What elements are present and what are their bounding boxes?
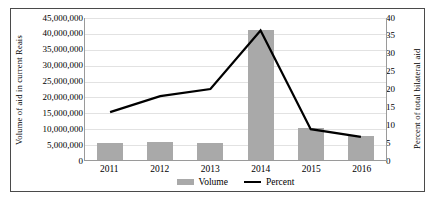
y-tick-label-left: 5,000,000 bbox=[47, 141, 83, 150]
y-axis-left-title: Volume of aid in current Reais bbox=[14, 15, 24, 165]
x-axis-ticks: 201120122013201420152016 bbox=[84, 164, 387, 174]
x-tick-label: 2011 bbox=[84, 164, 135, 174]
chart-figure: Volume of aid in current Reais Percent o… bbox=[10, 8, 425, 192]
x-tick-label: 2012 bbox=[135, 164, 186, 174]
legend-item[interactable]: Volume bbox=[177, 177, 228, 187]
chart-legend: VolumePercent bbox=[84, 177, 387, 187]
plot-area bbox=[84, 18, 387, 161]
y-tick-label-right: 10 bbox=[386, 121, 395, 130]
y-tick-label-left: 15,000,000 bbox=[43, 109, 84, 118]
legend-label: Volume bbox=[199, 177, 228, 187]
y-tick-label-left: 40,000,000 bbox=[43, 29, 84, 38]
legend-bar-swatch-icon bbox=[177, 179, 194, 185]
y-tick-label-left: 35,000,000 bbox=[43, 45, 84, 54]
y-tick-label-right: 15 bbox=[386, 103, 395, 112]
legend-line-swatch-icon bbox=[244, 181, 261, 183]
y-tick-label-right: 30 bbox=[386, 49, 395, 58]
x-tick-label: 2015 bbox=[286, 164, 337, 174]
y-axis-right-ticks: 0510152025303540 bbox=[386, 9, 410, 193]
x-tick-label: 2013 bbox=[185, 164, 236, 174]
y-tick-label-left: 25,000,000 bbox=[43, 77, 84, 86]
y-tick-label-right: 40 bbox=[386, 14, 395, 23]
line-series-percent bbox=[85, 18, 386, 160]
y-tick-label-left: 30,000,000 bbox=[43, 61, 84, 70]
x-tick-label: 2016 bbox=[337, 164, 388, 174]
y-tick-label-right: 20 bbox=[386, 85, 395, 94]
y-tick-label-right: 35 bbox=[386, 31, 395, 40]
legend-label: Percent bbox=[266, 177, 295, 187]
y-axis-right-title: Percent of total bilateral aid bbox=[412, 23, 422, 175]
legend-item[interactable]: Percent bbox=[244, 177, 295, 187]
y-tick-label-left: 45,000,000 bbox=[43, 14, 84, 23]
y-tick-label-right: 25 bbox=[386, 67, 395, 76]
y-tick-label-left: 10,000,000 bbox=[43, 125, 84, 134]
y-axis-left-ticks: 05,000,00010,000,00015,000,00020,000,000… bbox=[25, 9, 83, 193]
percent-polyline bbox=[110, 30, 361, 137]
y-tick-label-left: 0 bbox=[79, 157, 84, 166]
x-tick-label: 2014 bbox=[236, 164, 287, 174]
y-tick-label-left: 20,000,000 bbox=[43, 93, 84, 102]
